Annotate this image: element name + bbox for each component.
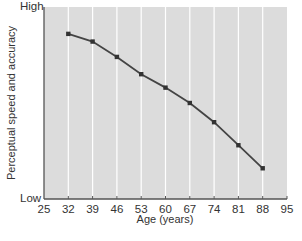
- x-tick-label: 88: [256, 203, 269, 215]
- y-axis-label: Perceptual speed and accuracy: [5, 26, 17, 180]
- data-point-marker: [163, 85, 167, 89]
- x-axis-label: Age (years): [137, 213, 194, 225]
- data-point-marker: [236, 143, 240, 147]
- x-tick-label: 39: [86, 203, 99, 215]
- y-axis-low-label: Low: [20, 192, 41, 204]
- x-tick-label: 95: [281, 203, 294, 215]
- data-point-marker: [261, 166, 265, 170]
- data-point-marker: [139, 72, 143, 76]
- y-axis-high-label: High: [20, 0, 44, 12]
- data-point-marker: [90, 39, 94, 43]
- data-point-marker: [115, 55, 119, 59]
- figure-caption-cutoff: ▬▬▬▬ ▬▬▬ ▬▬▬▬▬▬ ▬▬▬ ▬▬▬▬ ▬▬▬ ▬▬▬▬: [4, 234, 302, 241]
- x-tick-label: 81: [232, 203, 245, 215]
- data-point-marker: [66, 32, 70, 36]
- data-point-marker: [212, 120, 216, 124]
- line-chart: 2532394653606774818895: [0, 0, 302, 241]
- x-tick-label: 74: [208, 203, 221, 215]
- x-tick-label: 25: [38, 203, 51, 215]
- x-tick-label: 32: [62, 203, 75, 215]
- data-point-marker: [188, 101, 192, 105]
- x-tick-label: 46: [111, 203, 124, 215]
